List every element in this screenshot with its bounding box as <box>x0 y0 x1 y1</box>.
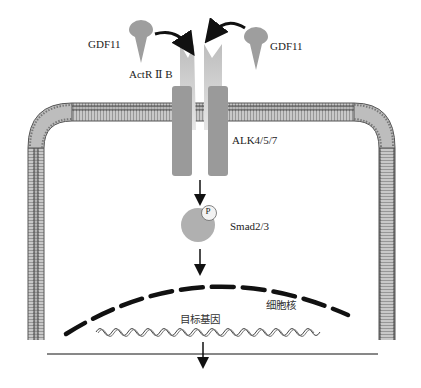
target-gene-label: 目标基因 <box>180 311 220 326</box>
binding-arrow-right <box>212 23 245 34</box>
target-gene-dna <box>96 329 320 337</box>
actr2b-label: ActR Ⅱ B <box>129 68 173 81</box>
gdf11-label-right: GDF11 <box>270 40 303 52</box>
binding-arrow-left <box>155 33 188 47</box>
smad23-protein <box>181 206 217 243</box>
alk-receptor <box>172 86 228 176</box>
smad-label: Smad2/3 <box>230 220 269 232</box>
gdf11-ligand-left <box>129 20 153 63</box>
signaling-diagram <box>0 0 421 388</box>
nucleus-label: 细胞核 <box>266 297 296 312</box>
phosphate-label: P <box>206 206 211 216</box>
alk-label: ALK4/5/7 <box>232 134 277 146</box>
gdf11-ligand-right <box>244 27 268 70</box>
gdf11-label-left: GDF11 <box>88 38 121 50</box>
